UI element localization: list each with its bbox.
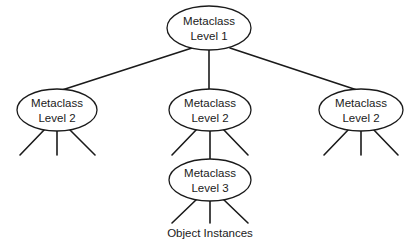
fanout-line — [172, 129, 197, 155]
fanout-line — [69, 129, 95, 155]
node-label-line2: Level 2 — [342, 112, 379, 124]
node-label-line1: Metaclass — [184, 97, 236, 109]
edges-middle-to-level3 — [172, 129, 248, 160]
edges-left-fanout — [20, 129, 95, 155]
node-label-line1: Metaclass — [183, 15, 235, 27]
fanout-line — [223, 129, 248, 155]
node-label-line1: Metaclass — [335, 97, 387, 109]
edges-right-fanout — [324, 129, 398, 155]
metaclass-diagram: Metaclass Level 1 Metaclass Level 2 Meta… — [0, 0, 414, 246]
node-metaclass-level2-right: Metaclass Level 2 — [319, 89, 403, 131]
node-metaclass-level1: Metaclass Level 1 — [167, 6, 251, 50]
edge-level1-to-right — [230, 48, 357, 90]
edges-level1-to-level2 — [62, 48, 357, 90]
node-label-line2: Level 2 — [191, 112, 228, 124]
edge-level1-to-left — [62, 48, 192, 90]
node-label-line1: Metaclass — [31, 97, 83, 109]
fanout-line — [20, 129, 45, 155]
node-label-line2: Level 3 — [191, 182, 228, 194]
fanout-line — [373, 129, 398, 155]
node-metaclass-level2-middle: Metaclass Level 2 — [169, 89, 251, 131]
fanout-line — [172, 199, 197, 223]
node-metaclass-level2-left: Metaclass Level 2 — [17, 89, 97, 131]
fanout-line — [223, 199, 248, 223]
object-instances-caption: Object Instances — [167, 227, 253, 239]
node-label-line2: Level 1 — [190, 30, 227, 42]
node-label-line1: Metaclass — [184, 167, 236, 179]
node-metaclass-level3: Metaclass Level 3 — [169, 159, 251, 201]
fanout-line — [324, 129, 349, 155]
edges-level3-fanout — [172, 199, 248, 223]
node-label-line2: Level 2 — [38, 112, 75, 124]
